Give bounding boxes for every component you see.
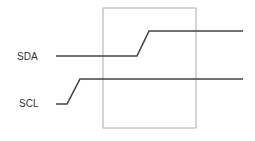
timing-diagram: SDA SCL: [0, 0, 255, 141]
scl-waveform: [56, 79, 243, 104]
sda-waveform: [56, 31, 243, 56]
scl-label: SCL: [19, 98, 39, 109]
timing-window-box: [103, 8, 196, 128]
sda-label: SDA: [17, 51, 38, 62]
